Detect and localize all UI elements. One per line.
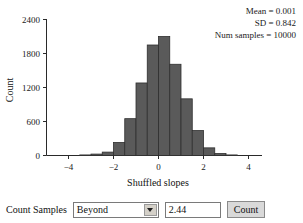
x-tick-label-2: 2 [201,162,206,172]
histogram-bar [159,37,170,156]
y-tick-label-1800: 1800 [22,49,41,59]
histogram-bar [91,154,102,155]
histogram-bar [215,154,226,156]
y-axis-ticks: 0 600 1200 1800 2400 [22,15,47,161]
histogram-bar [114,142,125,155]
condition-select[interactable]: Beyond [73,202,159,218]
y-axis-title: Count [4,78,15,103]
stat-num-samples: Num samples = 10000 [215,30,297,40]
histogram-bar [102,152,113,155]
count-samples-label: Count Samples [6,204,67,215]
histogram-bar [170,64,181,155]
x-axis-title: Shuffled slopes [127,177,189,188]
histogram-bar [192,131,203,156]
histogram-bar [80,155,91,156]
histogram-bar [136,83,147,156]
chevron-down-glyph [147,208,153,212]
count-samples-control-bar: Count Samples Beyond 2.44 Count [0,196,303,223]
stat-sd: SD = 0.842 [255,18,296,28]
y-tick-label-600: 600 [27,117,41,127]
histogram-bar [125,119,136,156]
histogram-bars [80,37,238,156]
chevron-down-icon[interactable] [144,204,157,216]
y-tick-label-1200: 1200 [22,83,41,93]
histogram-bar [147,45,158,156]
x-tick-label-neg4: −4 [64,162,74,172]
y-tick-label-2400: 2400 [22,15,41,25]
histogram-bar [226,155,237,156]
statistics-annotation: Mean = 0.001 SD = 0.842 Num samples = 10… [215,6,297,40]
histogram-panel: 0 600 1200 1800 2400 Count −4 −2 0 2 4 S… [0,0,303,190]
stat-mean: Mean = 0.001 [246,6,296,16]
x-tick-label-0: 0 [156,162,161,172]
histogram-bar [181,99,192,156]
threshold-input-value: 2.44 [169,203,187,217]
condition-select-value: Beyond [74,203,108,217]
x-axis-ticks: −4 −2 0 2 4 [64,156,252,173]
threshold-input[interactable]: 2.44 [165,202,221,218]
y-tick-label-0: 0 [36,151,41,161]
histogram-bar [204,148,215,156]
count-button[interactable]: Count [227,201,265,218]
histogram-chart: 0 600 1200 1800 2400 Count −4 −2 0 2 4 S… [0,0,303,190]
x-tick-label-4: 4 [246,162,251,172]
x-tick-label-neg2: −2 [109,162,119,172]
